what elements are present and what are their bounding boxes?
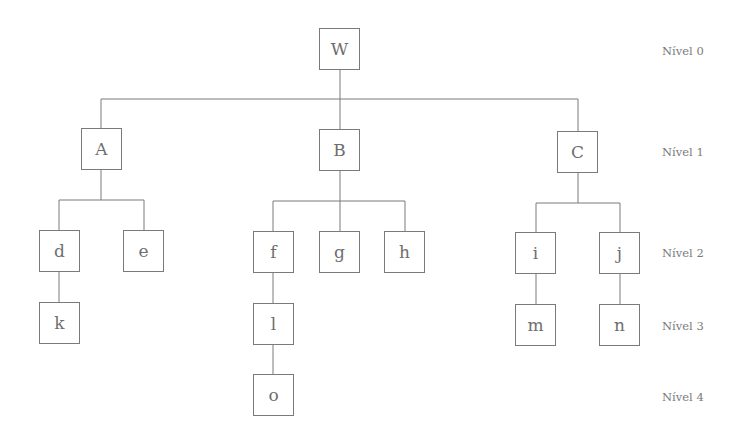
node-W: W — [319, 28, 360, 70]
node-o: o — [253, 374, 294, 416]
node-g: g — [319, 231, 360, 273]
node-m: m — [515, 304, 556, 346]
level-label-2: Nível 2 — [662, 246, 704, 260]
node-d: d — [39, 230, 80, 272]
level-label-3: Nível 3 — [662, 319, 704, 333]
node-B: B — [319, 129, 360, 171]
node-n: n — [599, 304, 640, 346]
level-label-4: Nível 4 — [662, 390, 704, 404]
node-C: C — [557, 131, 598, 173]
node-A: A — [81, 128, 122, 170]
node-h: h — [384, 231, 425, 273]
tree-edges — [0, 0, 754, 443]
level-label-0: Nível 0 — [662, 44, 704, 58]
node-k: k — [39, 302, 80, 344]
node-f: f — [253, 231, 294, 273]
tree-diagram: W A B C d e f g h i j k l m n o Nível 0 … — [0, 0, 754, 443]
node-l: l — [253, 303, 294, 345]
node-j: j — [599, 232, 640, 274]
node-i: i — [515, 232, 556, 274]
level-label-1: Nível 1 — [662, 145, 704, 159]
node-e: e — [123, 230, 164, 272]
